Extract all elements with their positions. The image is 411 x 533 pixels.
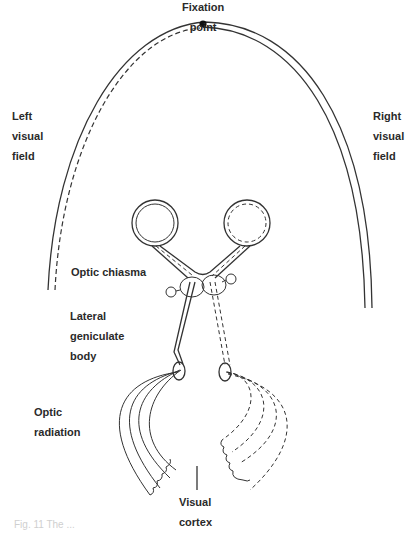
label-fixation-point: Fixation point [182, 0, 224, 37]
label-left-visual-field: Left visual field [12, 106, 43, 166]
optic-radiation-left [119, 370, 181, 495]
optic-chiasma [166, 274, 236, 297]
label-optic-chiasma: Optic chiasma [71, 262, 146, 282]
label-lateral-geniculate-body: Lateral geniculate body [70, 306, 124, 366]
visual-pathway-diagram [0, 0, 411, 533]
right-field-arc-inner [203, 27, 365, 308]
optic-tract-right [210, 282, 230, 365]
right-eye [224, 200, 270, 246]
label-optic-radiation: Optic radiation [34, 402, 80, 442]
label-right-visual-field: Right visual field [373, 106, 404, 166]
optic-radiation-right [221, 372, 287, 490]
label-visual-cortex: Visual cortex [179, 492, 212, 532]
left-field-arc-dashed [55, 28, 200, 290]
optic-nerves [152, 246, 250, 278]
left-eye [132, 200, 178, 246]
figure-caption: Fig. 11 The ... [14, 519, 75, 530]
